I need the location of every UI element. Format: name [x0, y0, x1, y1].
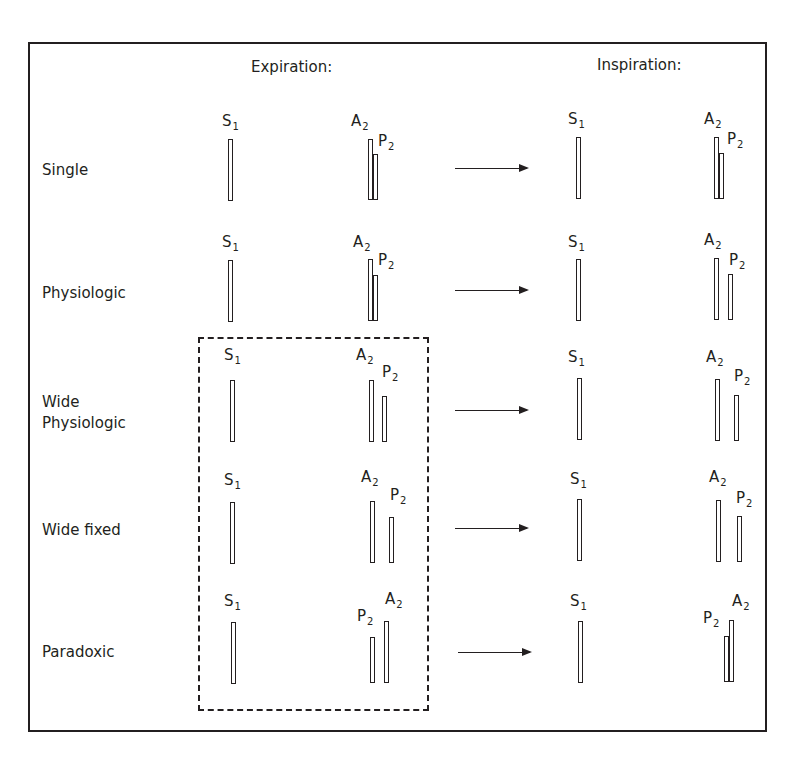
s1-label: S1: [222, 114, 239, 132]
s1-label: S1: [568, 112, 585, 130]
s1-bar: [577, 499, 582, 561]
p2-label: P2: [390, 488, 406, 506]
a2-label: A2: [385, 592, 403, 610]
p2-bar: [728, 274, 733, 320]
p2-bar: [719, 153, 724, 199]
a2-label: A2: [356, 348, 374, 366]
row-label-physiologic: Physiologic: [42, 283, 126, 304]
p2-label: P2: [736, 491, 752, 509]
s1-bar: [230, 380, 235, 442]
p2-bar: [373, 154, 378, 200]
p2-label: P2: [729, 253, 745, 271]
s1-label: S1: [224, 594, 241, 612]
p2-label: P2: [382, 365, 398, 383]
row-label-wide-fixed: Wide fixed: [42, 520, 121, 541]
s1-bar: [576, 259, 581, 321]
p2-bar: [370, 637, 375, 683]
arrow-right-icon: [455, 528, 527, 529]
p2-bar: [382, 396, 387, 442]
s1-label: S1: [224, 473, 241, 491]
arrow-right-icon: [455, 168, 527, 169]
a2-bar: [715, 379, 720, 441]
s1-label: S1: [222, 235, 239, 253]
s1-bar: [230, 502, 235, 564]
s1-bar: [228, 139, 233, 201]
p2-label: P2: [357, 609, 373, 627]
row-label-wide-physiologic: Wide Physiologic: [42, 392, 126, 434]
p2-label: P2: [378, 253, 394, 271]
a2-bar: [369, 380, 374, 442]
s1-label: S1: [568, 235, 585, 253]
arrow-right-icon: [455, 290, 527, 291]
a2-label: A2: [361, 470, 379, 488]
p2-bar: [373, 275, 378, 321]
s1-label: S1: [570, 472, 587, 490]
s1-bar: [228, 260, 233, 322]
a2-label: A2: [709, 470, 727, 488]
a2-label: A2: [706, 350, 724, 368]
s1-bar: [577, 378, 582, 440]
p2-bar: [734, 395, 739, 441]
a2-bar: [716, 500, 721, 562]
row-label-paradoxic: Paradoxic: [42, 642, 114, 663]
p2-label: P2: [734, 369, 750, 387]
a2-label: A2: [353, 235, 371, 253]
expiration-column-title: Expiration:: [251, 58, 332, 76]
a2-label: A2: [704, 112, 722, 130]
a2-bar: [384, 621, 389, 683]
p2-bar: [737, 516, 742, 562]
a2-bar: [370, 501, 375, 563]
p2-label: P2: [727, 132, 743, 150]
arrow-right-icon: [458, 652, 530, 653]
s1-label: S1: [568, 350, 585, 368]
arrow-right-icon: [455, 410, 527, 411]
s1-bar: [231, 622, 236, 684]
a2-label: A2: [351, 114, 369, 132]
a2-bar: [729, 620, 734, 682]
p2-label: P2: [703, 611, 719, 629]
s1-label: S1: [224, 348, 241, 366]
row-label-single: Single: [42, 160, 88, 181]
p2-label: P2: [378, 134, 394, 152]
a2-bar: [714, 258, 719, 320]
s1-bar: [578, 621, 583, 683]
s1-bar: [576, 137, 581, 199]
a2-label: A2: [732, 594, 750, 612]
a2-label: A2: [704, 233, 722, 251]
inspiration-column-title: Inspiration:: [597, 56, 682, 74]
p2-bar: [389, 517, 394, 563]
s1-label: S1: [570, 594, 587, 612]
